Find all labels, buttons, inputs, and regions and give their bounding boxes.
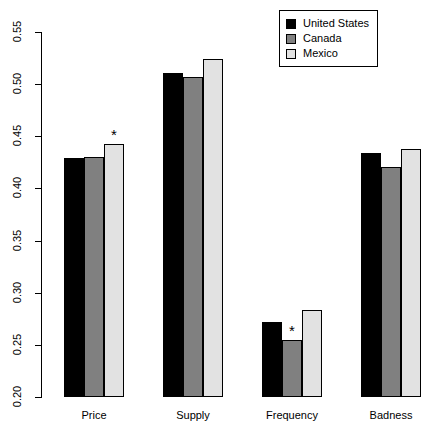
legend-swatch-icon — [286, 49, 296, 59]
x-axis-label-badness: Badness — [341, 409, 441, 421]
legend-item: Mexico — [286, 46, 369, 61]
plot-area: ** — [41, 0, 441, 398]
y-axis-tick-label: 0.20 — [12, 380, 23, 414]
chart-legend: United StatesCanadaMexico — [279, 10, 378, 67]
significance-star-price: * — [106, 127, 122, 142]
y-axis-tick-label: 0.40 — [12, 171, 23, 205]
x-axis-label-price: Price — [44, 409, 144, 421]
bar-supply-canada — [183, 77, 203, 397]
y-axis-tick-label: 0.50 — [12, 67, 23, 101]
bar-price-canada — [84, 157, 104, 397]
y-axis-tick-label: 0.55 — [12, 15, 23, 49]
bar-price-united-states — [64, 158, 84, 397]
bar-frequency-canada — [282, 340, 302, 397]
bar-badness-mexico — [401, 149, 421, 397]
bar-chart: 0.200.250.300.350.400.450.500.55 ** Pric… — [0, 0, 441, 446]
significance-star-frequency: * — [284, 323, 300, 338]
bar-supply-mexico — [203, 59, 223, 397]
legend-label: Canada — [303, 33, 342, 44]
bar-badness-united-states — [361, 153, 381, 397]
legend-label: Mexico — [303, 48, 338, 59]
x-axis-label-supply: Supply — [143, 409, 243, 421]
legend-swatch-icon — [286, 19, 296, 29]
y-axis-tick-label: 0.35 — [12, 223, 23, 257]
y-axis-tick-label: 0.30 — [12, 275, 23, 309]
bar-price-mexico — [104, 144, 124, 397]
x-axis-label-frequency: Frequency — [242, 409, 342, 421]
legend-item: Canada — [286, 31, 369, 46]
y-axis-tick-label: 0.45 — [12, 119, 23, 153]
bar-badness-canada — [381, 167, 401, 397]
legend-swatch-icon — [286, 34, 296, 44]
bar-frequency-united-states — [262, 322, 282, 397]
bar-frequency-mexico — [302, 310, 322, 397]
bar-supply-united-states — [163, 73, 183, 397]
legend-label: United States — [303, 18, 369, 29]
legend-item: United States — [286, 16, 369, 31]
y-axis-tick-label: 0.25 — [12, 327, 23, 361]
